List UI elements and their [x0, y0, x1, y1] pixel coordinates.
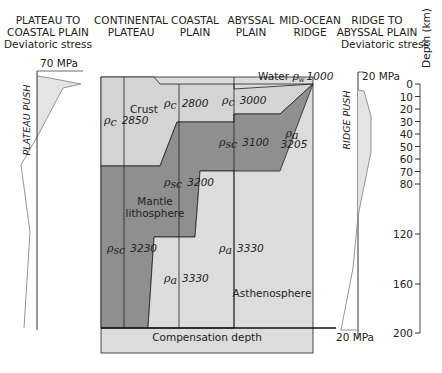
compensation-depth-label: Compensation depth	[152, 331, 262, 343]
svg-text:70 MPa: 70 MPa	[40, 57, 78, 69]
depth-axis: Depth (km) 0 10 20 30 40 50 60 70 80 120…	[393, 8, 432, 339]
ridge-stress-profile: 20 MPa 20 MPa RIDGE PUSH	[336, 70, 400, 343]
svg-text:0: 0	[406, 78, 413, 90]
depth-ticks: 0 10 20 30 40 50 60 70 80 120 160 200	[393, 78, 420, 339]
svg-text:RIDGE TO: RIDGE TO	[351, 14, 402, 26]
svg-text:Deviatoric stress: Deviatoric stress	[4, 38, 92, 50]
water-label: Water ρw1000	[258, 70, 334, 84]
svg-text:ABYSSAL: ABYSSAL	[228, 14, 275, 26]
header-coastal-plain: COASTAL PLAIN	[171, 14, 219, 38]
svg-text:RIDGE: RIDGE	[293, 26, 326, 38]
mantle-label-2: lithosphere	[126, 207, 185, 219]
svg-text:Depth (km): Depth (km)	[420, 8, 432, 68]
svg-text:PLATEAU: PLATEAU	[108, 26, 155, 38]
svg-text:40: 40	[400, 128, 413, 140]
asthenosphere-ridge-density: 3205	[281, 138, 308, 150]
svg-text:30: 30	[400, 116, 413, 128]
svg-text:RIDGE PUSH: RIDGE PUSH	[341, 91, 352, 150]
isostasy-diagram: PLATEAU TO COASTAL PLAIN Deviatoric stre…	[0, 0, 442, 373]
svg-text:PLAIN: PLAIN	[180, 26, 211, 38]
svg-text:ABYSSAL PLAIN: ABYSSAL PLAIN	[337, 26, 418, 38]
svg-text:60: 60	[400, 153, 413, 165]
asthenosphere-label: Asthenosphere	[233, 287, 312, 299]
plateau-stress-profile: 70 MPa PLATEAU PUSH	[21, 57, 83, 330]
mantle-label-1: Mantle	[137, 195, 173, 207]
svg-text:20 MPa: 20 MPa	[362, 70, 400, 82]
svg-text:MID-OCEAN: MID-OCEAN	[279, 14, 341, 26]
header-ridge-to-abyssal: RIDGE TO ABYSSAL PLAIN Deviatoric stress	[337, 14, 429, 50]
svg-text:PLATEAU PUSH: PLATEAU PUSH	[21, 85, 32, 156]
svg-text:COASTAL PLAIN: COASTAL PLAIN	[7, 26, 89, 38]
svg-text:PLAIN: PLAIN	[236, 26, 267, 38]
svg-text:200: 200	[393, 327, 413, 339]
svg-text:80: 80	[400, 178, 413, 190]
svg-text:160: 160	[393, 278, 413, 290]
header-mid-ocean-ridge: MID-OCEAN RIDGE	[279, 14, 341, 38]
svg-text:70: 70	[400, 166, 413, 178]
svg-text:COASTAL: COASTAL	[171, 14, 219, 26]
header-abyssal-plain: ABYSSAL PLAIN	[228, 14, 275, 38]
header-plateau-to-coastal: PLATEAU TO COASTAL PLAIN Deviatoric stre…	[4, 14, 92, 50]
header-continental-plateau: CONTINENTAL PLATEAU	[94, 14, 168, 38]
svg-text:20 MPa: 20 MPa	[336, 331, 374, 343]
svg-text:Deviatoric stress: Deviatoric stress	[341, 38, 429, 50]
svg-text:CONTINENTAL: CONTINENTAL	[94, 14, 168, 26]
svg-text:120: 120	[393, 228, 413, 240]
svg-text:PLATEAU TO: PLATEAU TO	[16, 14, 81, 26]
svg-text:50: 50	[400, 141, 413, 153]
svg-text:10: 10	[400, 91, 413, 103]
svg-text:20: 20	[400, 103, 413, 115]
